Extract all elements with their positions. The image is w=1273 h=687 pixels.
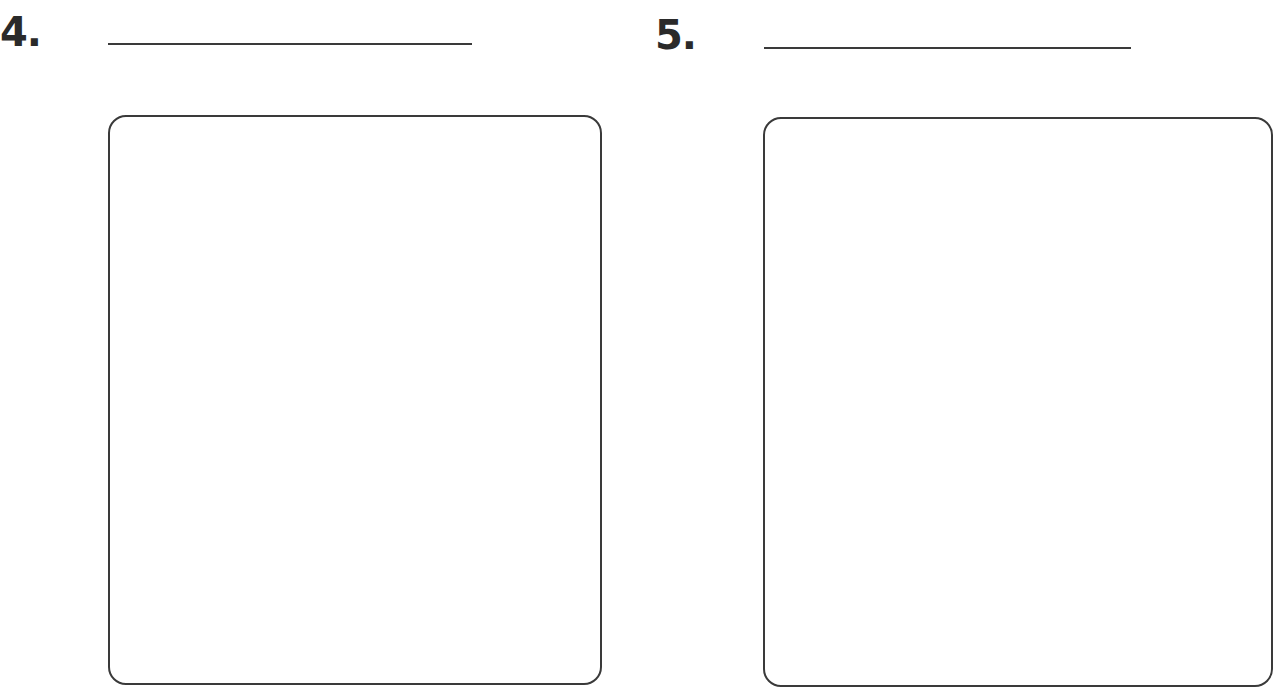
item-number-4: 4. bbox=[0, 12, 41, 52]
drawing-box-4[interactable] bbox=[108, 115, 602, 685]
item-number-5: 5. bbox=[655, 15, 696, 55]
answer-line-4[interactable] bbox=[108, 43, 472, 45]
drawing-box-5[interactable] bbox=[763, 117, 1273, 687]
answer-line-5[interactable] bbox=[764, 47, 1131, 49]
